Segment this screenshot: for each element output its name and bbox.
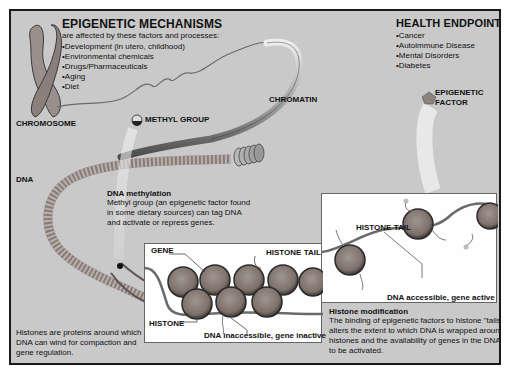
health-item: Autoimmune Disease bbox=[396, 41, 475, 51]
histone-tail-label-right: HISTONE TAIL bbox=[356, 223, 411, 232]
health-item: Mental Disorders bbox=[396, 51, 475, 61]
methyl-group-label: METHYL GROUP bbox=[145, 115, 209, 124]
methyl-group-icon bbox=[132, 115, 142, 126]
mechanism-item: Environmental chemicals bbox=[62, 52, 185, 62]
histone-label: HISTONE bbox=[149, 319, 184, 328]
dna-inaccessible-label: DNA inaccessible, gene inactive bbox=[204, 331, 326, 340]
chromatin-coil bbox=[234, 144, 264, 166]
condensed-chromatin-artwork bbox=[145, 244, 323, 344]
chromosome-label: CHROMOSOME bbox=[16, 119, 76, 128]
open-chromatin-artwork bbox=[322, 194, 498, 304]
chromosome-icon bbox=[30, 25, 62, 117]
diagram-frame: EPIGENETIC MECHANISMS are affected by th… bbox=[9, 9, 501, 365]
health-list: Cancer Autoimmune Disease Mental Disorde… bbox=[396, 31, 475, 71]
health-item: Diabetes bbox=[396, 61, 475, 71]
mechanisms-list: Development (in utero, childhood) Enviro… bbox=[62, 42, 185, 92]
dna-label: DNA bbox=[16, 175, 33, 184]
methylation-description: DNA methylation Methyl group (an epigene… bbox=[107, 189, 250, 228]
dna-accessible-label: DNA accessible, gene active bbox=[387, 293, 495, 302]
histone-modification-description: Histone modification The binding of epig… bbox=[329, 307, 501, 356]
health-item: Cancer bbox=[396, 31, 475, 41]
mechanism-item: Development (in utero, childhood) bbox=[62, 42, 185, 52]
epigenetic-factor-label: EPIGENETIC FACTOR bbox=[435, 88, 483, 108]
methylation-title: DNA methylation bbox=[107, 189, 250, 198]
histone-modification-title: Histone modification bbox=[329, 307, 501, 316]
mechanisms-subtitle: are affected by these factors and proces… bbox=[62, 31, 219, 41]
health-title: HEALTH ENDPOINTS bbox=[396, 17, 501, 29]
mechanism-item: Drugs/Pharmaceuticals bbox=[62, 62, 185, 72]
histone-cluster-icon bbox=[168, 265, 323, 319]
chromatin-label: CHROMATIN bbox=[269, 95, 317, 104]
epigenetic-factor-arrow bbox=[424, 107, 433, 191]
mechanisms-title: EPIGENETIC MECHANISMS bbox=[62, 17, 222, 31]
accessible-panel bbox=[321, 193, 497, 303]
mechanism-item: Diet bbox=[62, 82, 185, 92]
gene-label: GENE bbox=[151, 246, 174, 255]
mechanism-item: Aging bbox=[62, 72, 185, 82]
inaccessible-panel bbox=[144, 243, 322, 343]
histone-tail-label-left: HISTONE TAIL bbox=[266, 248, 321, 257]
histones-note: Histones are proteins around which DNA c… bbox=[16, 328, 141, 358]
epigenetic-factor-icon bbox=[422, 92, 436, 104]
